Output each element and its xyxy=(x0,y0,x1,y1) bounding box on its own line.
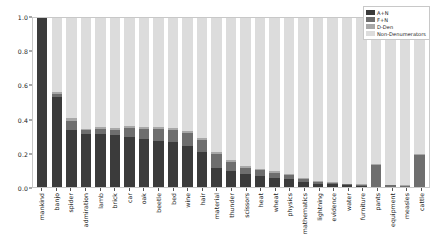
bar-column[interactable] xyxy=(398,18,413,187)
x-tick-mark xyxy=(70,188,71,191)
bar-segment xyxy=(211,18,221,152)
x-tick-label: cattle xyxy=(417,193,424,211)
bar-segment xyxy=(197,140,207,153)
bar-column[interactable] xyxy=(166,18,181,187)
x-tick-label: furniture xyxy=(359,193,366,220)
bar-segment xyxy=(124,18,134,126)
bar-segment xyxy=(95,134,105,187)
x-tick-label: oak xyxy=(140,193,147,204)
bar-segment xyxy=(139,129,149,139)
bar-segment xyxy=(313,184,323,187)
x-tick: mathematics xyxy=(297,188,312,250)
bar-segment xyxy=(153,18,163,127)
bar-column[interactable] xyxy=(209,18,224,187)
bar-segment xyxy=(66,18,76,118)
legend-label: D-Den xyxy=(377,24,393,30)
chart-legend: A+NF+ND-DenNon-Denumerators xyxy=(363,6,431,40)
bar-stack xyxy=(240,18,250,187)
bar-segment xyxy=(95,18,105,127)
bar-column[interactable] xyxy=(238,18,253,187)
bar-column[interactable] xyxy=(282,18,297,187)
bar-column[interactable] xyxy=(79,18,94,187)
legend-swatch xyxy=(366,10,375,14)
bar-stack xyxy=(110,18,120,187)
x-tick-label: wheat xyxy=(271,193,278,212)
x-tick-label: physics xyxy=(286,193,293,216)
bar-column[interactable] xyxy=(267,18,282,187)
bar-segment xyxy=(182,146,192,187)
x-tick-label: admiration xyxy=(82,193,89,227)
bar-segment xyxy=(153,129,163,141)
x-tick: oak xyxy=(136,188,151,250)
bar-segment xyxy=(168,142,178,187)
x-tick: hair xyxy=(195,188,210,250)
bar-segment xyxy=(139,139,149,187)
bar-column[interactable] xyxy=(93,18,108,187)
bar-column[interactable] xyxy=(195,18,210,187)
bar-column[interactable] xyxy=(253,18,268,187)
x-tick: heat xyxy=(253,188,268,250)
x-tick-label: water xyxy=(344,193,351,211)
x-tick: beetle xyxy=(151,188,166,250)
bar-column[interactable] xyxy=(180,18,195,187)
x-tick: bed xyxy=(165,188,180,250)
x-tick: wine xyxy=(180,188,195,250)
x-tick-mark xyxy=(362,188,363,191)
bar-column[interactable] xyxy=(64,18,79,187)
bar-segment xyxy=(255,176,265,187)
bar-column[interactable] xyxy=(122,18,137,187)
bar-segment xyxy=(356,186,366,187)
legend-item[interactable]: F+N xyxy=(366,16,427,23)
x-tick-mark xyxy=(85,188,86,191)
legend-item[interactable]: D-Den xyxy=(366,23,427,30)
bar-stack xyxy=(124,18,134,187)
bar-column[interactable] xyxy=(296,18,311,187)
bar-segment xyxy=(110,18,120,128)
bar-stack xyxy=(269,18,279,187)
x-tick-mark xyxy=(406,188,407,191)
bar-segment xyxy=(371,165,381,187)
x-tick-mark xyxy=(187,188,188,191)
x-tick-mark xyxy=(158,188,159,191)
bar-column[interactable] xyxy=(340,18,355,187)
x-tick-mark xyxy=(56,188,57,191)
x-tick-label: car xyxy=(125,193,132,203)
legend-swatch xyxy=(366,31,375,35)
x-tick-mark xyxy=(246,188,247,191)
bar-column[interactable] xyxy=(325,18,340,187)
x-tick-mark xyxy=(202,188,203,191)
legend-swatch xyxy=(366,17,375,21)
x-tick-mark xyxy=(114,188,115,191)
bar-segment xyxy=(313,18,323,181)
bar-stack xyxy=(356,18,366,187)
bar-column[interactable] xyxy=(50,18,65,187)
x-tick-mark xyxy=(173,188,174,191)
legend-item[interactable]: A+N xyxy=(366,9,427,16)
bar-column[interactable] xyxy=(108,18,123,187)
bar-column[interactable] xyxy=(354,18,369,187)
bar-stack xyxy=(66,18,76,187)
bar-stack xyxy=(298,18,308,187)
bar-column[interactable] xyxy=(412,18,427,187)
bar-segment xyxy=(37,18,47,187)
bar-column[interactable] xyxy=(35,18,50,187)
bar-segment xyxy=(52,18,62,92)
bar-column[interactable] xyxy=(311,18,326,187)
bar-segment xyxy=(255,18,265,169)
bar-column[interactable] xyxy=(137,18,152,187)
x-tick: mankind xyxy=(34,188,49,250)
legend-item[interactable]: Non-Denumerators xyxy=(366,30,427,37)
legend-label: A+N xyxy=(377,10,389,16)
bar-column[interactable] xyxy=(383,18,398,187)
y-tick-label: 0.0 xyxy=(18,185,28,192)
bar-column[interactable] xyxy=(151,18,166,187)
x-tick: material xyxy=(209,188,224,250)
x-tick-label: bed xyxy=(169,193,176,205)
x-tick-label: hair xyxy=(198,193,205,205)
x-tick: admiration xyxy=(78,188,93,250)
x-tick-label: mathematics xyxy=(300,193,307,234)
bar-column[interactable] xyxy=(369,18,384,187)
bar-segment xyxy=(298,18,308,178)
chart-figure: 0.00.20.40.60.81.0 mankindbanjospideradm… xyxy=(0,0,434,250)
bar-column[interactable] xyxy=(224,18,239,187)
